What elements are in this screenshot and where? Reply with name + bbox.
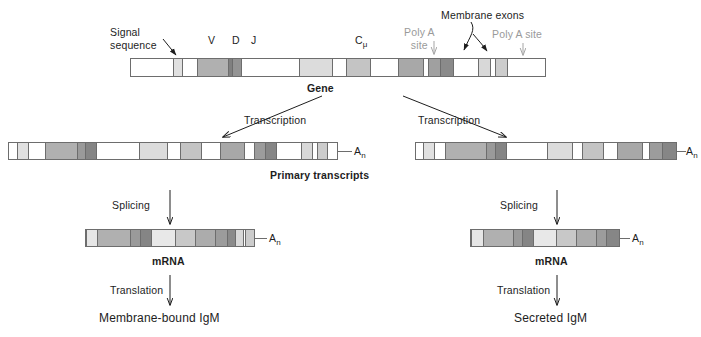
mrna-left-label: mRNA <box>152 255 185 268</box>
bar-segment <box>370 59 398 76</box>
bar-segment <box>513 230 521 246</box>
mrna-tail-right-n: n <box>639 238 644 247</box>
bar-segment <box>77 143 86 159</box>
poly-a-site-right-label: Poly A site <box>492 28 542 41</box>
bar-segment <box>17 143 28 159</box>
bar-segment <box>471 230 483 246</box>
poly-a-tail-left-label: An <box>354 145 366 163</box>
poly-a-site-left-label: Poly A site <box>404 26 435 51</box>
bar-segment <box>483 230 513 246</box>
mrna-tail-left-label: An <box>269 232 281 250</box>
transcription-left-label: Transcription <box>244 114 306 127</box>
bar-segment <box>180 143 201 159</box>
bar-segment <box>131 59 173 76</box>
bar-segment <box>28 143 45 159</box>
poly-a-tail-right-n: n <box>693 151 698 160</box>
gene-bar <box>130 58 546 77</box>
bar-segment <box>576 230 596 246</box>
bar-segment <box>495 59 507 76</box>
bar-segment <box>582 143 603 159</box>
mrna-tail-right-label: An <box>632 232 644 250</box>
primary-transcript-left-bar <box>8 142 338 160</box>
bar-segment <box>533 230 555 246</box>
bar-segment <box>445 143 485 159</box>
membrane-exon-arrow-left <box>464 22 473 50</box>
bar-segment <box>572 143 582 159</box>
v-segment-label: V <box>208 34 215 47</box>
bar-segment <box>299 59 332 76</box>
membrane-exon-arrow-right <box>473 34 487 51</box>
bar-segment <box>434 143 446 159</box>
translation-right-label: Translation <box>497 284 550 297</box>
bar-segment <box>86 230 97 246</box>
gene-label: Gene <box>307 82 334 95</box>
membrane-bound-igm-label: Membrane-bound IgM <box>99 312 220 325</box>
c-mu-label-sub: μ <box>363 40 368 49</box>
mrna-tail-right-line <box>620 238 630 239</box>
bar-segment <box>195 230 215 246</box>
bar-segment <box>201 143 220 159</box>
bar-segment <box>617 143 642 159</box>
mrna-tail-left-line <box>255 238 267 239</box>
bar-segment <box>556 230 576 246</box>
bar-segment <box>227 230 234 246</box>
poly-a-tail-left-line <box>338 151 352 152</box>
bar-segment <box>346 59 370 76</box>
bar-segment <box>245 230 254 246</box>
bar-segment <box>96 143 138 159</box>
bar-segment <box>276 143 301 159</box>
c-mu-label-main: C <box>355 34 363 46</box>
primary-transcripts-label: Primary transcripts <box>270 169 369 182</box>
bar-segment <box>506 143 547 159</box>
bar-segment <box>596 230 606 246</box>
bar-segment <box>173 59 182 76</box>
primary-transcript-right-bar <box>415 142 677 160</box>
bar-segment <box>606 230 619 246</box>
mrna-tail-left-n: n <box>276 238 281 247</box>
bar-segment <box>197 59 228 76</box>
bar-segment <box>130 230 139 246</box>
bar-segment <box>327 143 336 159</box>
signal-sequence-label-line1: Signal <box>110 26 140 38</box>
signal-sequence-label-line2: sequence <box>110 39 157 51</box>
bar-segment <box>167 143 180 159</box>
signal-sequence-pointer-arrow <box>163 39 176 55</box>
bar-segment <box>522 230 534 246</box>
bar-segment <box>301 143 311 159</box>
poly-a-tail-left-n: n <box>361 151 366 160</box>
translation-left-label: Translation <box>110 284 163 297</box>
poly-a-site-left-line2: site <box>404 39 435 52</box>
bar-segment <box>486 143 495 159</box>
bar-segment <box>440 59 453 76</box>
c-mu-label: Cμ <box>355 34 368 52</box>
bar-segment <box>85 143 96 159</box>
bar-segment <box>603 143 617 159</box>
bar-segment <box>265 143 277 159</box>
bar-segment <box>317 143 327 159</box>
bar-segment <box>45 143 76 159</box>
bar-segment <box>507 59 545 76</box>
bar-segment <box>182 59 197 76</box>
splicing-left-label: Splicing <box>112 199 150 212</box>
splicing-right-label: Splicing <box>500 199 538 212</box>
mrna-right-bar <box>470 229 620 247</box>
mrna-right-label: mRNA <box>535 255 568 268</box>
bar-segment <box>232 59 241 76</box>
bar-segment <box>649 143 662 159</box>
bar-segment <box>478 59 490 76</box>
mrna-left-bar <box>85 229 255 247</box>
bar-segment <box>244 143 253 159</box>
poly-a-tail-right-line <box>677 151 686 152</box>
poly-a-tail-right-label: An <box>686 145 698 163</box>
bar-segment <box>9 143 17 159</box>
transcription-right-label: Transcription <box>418 114 480 127</box>
bar-segment <box>241 59 299 76</box>
bar-segment <box>235 230 243 246</box>
figure-canvas: Signal sequence V D J Cμ Membrane exons … <box>0 0 701 337</box>
bar-segment <box>139 143 167 159</box>
secreted-igm-label: Secreted IgM <box>514 312 587 325</box>
j-segment-label: J <box>251 34 256 47</box>
bar-segment <box>220 143 244 159</box>
d-segment-label: D <box>232 34 240 47</box>
bar-segment <box>175 230 195 246</box>
